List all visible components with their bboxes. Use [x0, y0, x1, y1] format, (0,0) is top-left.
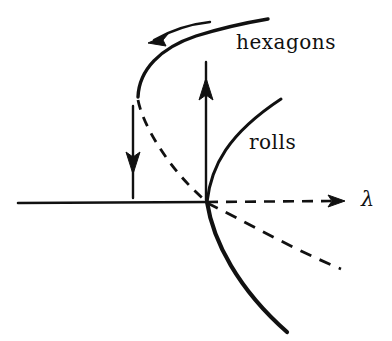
lambda-axis-dashed-right — [207, 201, 331, 202]
rolls-branch-label: rolls — [249, 130, 296, 154]
hexagons-branch-label: hexagons — [236, 30, 336, 54]
hexagons-unstable-branch — [138, 100, 207, 202]
bifurcation-diagram-figure: hexagons rolls λ — [0, 0, 392, 341]
lambda-axis-solid-left — [18, 202, 207, 203]
hexagons-leftward-flow-arrowhead-icon — [148, 34, 168, 46]
lambda-axis-label: λ — [361, 187, 375, 211]
rolls-lower-stable-branch — [207, 202, 287, 332]
